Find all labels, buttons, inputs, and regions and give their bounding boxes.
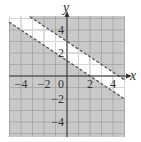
y-tick-label: 2 xyxy=(58,46,64,60)
y-axis-label: y xyxy=(61,0,70,15)
x-tick-label: −2 xyxy=(38,77,51,91)
y-tick-label: 4 xyxy=(58,23,64,37)
inequality-graph: −4−202442−2−4 y x xyxy=(0,0,141,142)
y-tick-label: −4 xyxy=(51,115,64,129)
x-tick-label: 2 xyxy=(87,77,93,91)
x-tick-label: 0 xyxy=(58,77,64,91)
x-axis-label: x xyxy=(129,68,137,83)
x-tick-label: 4 xyxy=(110,77,116,91)
x-tick-label: −4 xyxy=(15,77,28,91)
y-tick-label: −2 xyxy=(51,92,64,106)
